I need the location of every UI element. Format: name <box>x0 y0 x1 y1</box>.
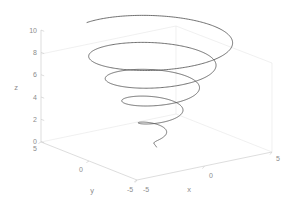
y-axis-title: y <box>90 186 94 195</box>
z-axis: 0 2 4 6 8 10 z <box>14 27 44 146</box>
z-tick-mark-4 <box>41 97 44 98</box>
data-series-group <box>87 15 233 147</box>
y-tick-mark-0 <box>86 161 89 163</box>
x-tick-label-5: 5 <box>276 155 280 162</box>
z-tick-label-4: 4 <box>33 94 37 101</box>
chart-plot-area: 0 2 4 6 8 10 z 5 0 -5 y -5 0 5 x <box>0 0 292 219</box>
floor-back-left-edge <box>176 114 272 152</box>
z-tick-mark-6 <box>41 75 44 76</box>
figure-canvas: 0 2 4 6 8 10 z 5 0 -5 y -5 0 5 x <box>0 0 292 219</box>
y-tick-mark-5 <box>38 142 41 144</box>
x-tick-label-0: 0 <box>209 172 213 179</box>
z-tick-mark-2 <box>41 119 44 120</box>
z-axis-title: z <box>14 83 18 92</box>
z-tick-label-8: 8 <box>33 49 37 56</box>
z-tick-label-10: 10 <box>29 27 37 34</box>
x-axis: -5 0 5 x <box>135 152 280 194</box>
z-tick-label-6: 6 <box>33 71 37 78</box>
y-axis: 5 0 -5 y <box>33 142 137 195</box>
y-tick-label-neg5: -5 <box>127 186 133 193</box>
z-tick-label-2: 2 <box>33 116 37 123</box>
z-tick-mark-10 <box>41 30 44 31</box>
axes-floor <box>41 26 272 180</box>
y-tick-label-5: 5 <box>33 145 37 152</box>
floor-back-right-edge <box>41 114 176 142</box>
x-axis-title: x <box>187 185 191 194</box>
pane-top-back-left-edge <box>41 26 176 54</box>
y-tick-label-0: 0 <box>79 166 83 173</box>
x-tick-label-neg5: -5 <box>143 186 149 193</box>
conical-spiral-curve <box>87 15 233 147</box>
